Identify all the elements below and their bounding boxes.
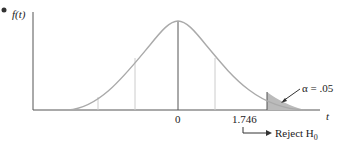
tick-zero: 0 [175,113,181,125]
reject-arrow [243,127,267,133]
x-axis-label: t [326,110,329,122]
reject-label: Reject H0 [275,127,318,142]
reject-text: Reject H [275,127,314,139]
reject-subscript: 0 [314,133,318,142]
reject-arrowhead [266,130,272,136]
alpha-label: α = .05 [302,82,333,94]
tick-critical: 1.746 [232,113,257,125]
bullet-dot [2,8,7,13]
y-axis-label: f(t) [12,8,25,20]
